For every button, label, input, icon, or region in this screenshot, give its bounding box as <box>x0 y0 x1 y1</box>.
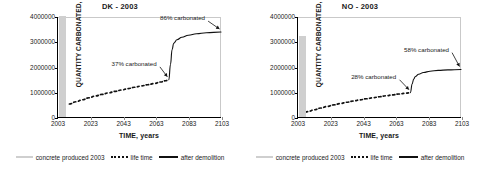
y-tick-mark-no <box>295 118 298 119</box>
legend-label-demolition: after demolition <box>181 154 225 161</box>
annotation-arrowhead-dk-1 <box>164 73 168 77</box>
plot-area-dk: QUANTITY CARBONATED, m3 0100000020000003… <box>57 17 221 118</box>
legend-item-demolition: after demolition <box>399 154 465 161</box>
annotation-label-dk-1: 37% carbonated <box>112 61 157 67</box>
legend-swatch-dotted <box>351 156 368 158</box>
y-tick-mark-no <box>295 42 298 43</box>
x-tick-label-no: 2063 <box>389 121 403 127</box>
figure-canvas: DK - 2003 QUANTITY CARBONATED, m3 010000… <box>0 0 481 170</box>
x-axis-title-dk: TIME, years <box>57 132 221 139</box>
series-after-demolition-no <box>410 70 461 93</box>
x-tick-mark-no <box>429 117 430 120</box>
chart-title-no: NO - 2003 <box>240 2 480 11</box>
y-tick-mark-dk <box>55 17 58 18</box>
x-tick-mark-no <box>396 117 397 120</box>
x-tick-label-dk: 2083 <box>182 121 196 127</box>
legend-swatch-gray-band <box>256 156 273 158</box>
x-tick-label-no: 2083 <box>422 121 436 127</box>
plot-area-no: QUANTITY CARBONATED, m3 0100000020000003… <box>297 17 461 118</box>
x-tick-label-dk: 2023 <box>84 121 98 127</box>
legend-no: concrete produced 2003 life time after d… <box>248 150 472 164</box>
x-tick-label-no: 2023 <box>324 121 338 127</box>
legend-item-produced: concrete produced 2003 <box>16 154 105 161</box>
y-tick-label-dk: 2000000 <box>30 64 55 70</box>
legend-dk: concrete produced 2003 life time after d… <box>8 150 232 164</box>
legend-swatch-solid <box>399 156 418 158</box>
y-tick-label-dk: 1000000 <box>30 90 55 96</box>
x-tick-label-dk: 2043 <box>116 121 130 127</box>
chart-title-dk: DK - 2003 <box>0 2 240 11</box>
y-tick-mark-dk <box>55 118 58 119</box>
x-tick-label-dk: 2003 <box>51 121 65 127</box>
x-axis-title-no: TIME, years <box>297 132 461 139</box>
x-tick-mark-dk <box>91 117 92 120</box>
y-tick-mark-no <box>295 68 298 69</box>
y-tick-label-dk: 4000000 <box>30 14 55 20</box>
y-tick-mark-dk <box>55 93 58 94</box>
legend-item-demolition: after demolition <box>159 154 225 161</box>
annotation-label-no-2: 58% carbonated <box>404 47 449 53</box>
x-tick-label-no: 2003 <box>291 121 305 127</box>
legend-swatch-solid <box>159 156 178 158</box>
legend-label-lifetime: life time <box>131 154 153 161</box>
legend-label-lifetime: life time <box>371 154 393 161</box>
y-tick-mark-no <box>295 93 298 94</box>
annotation-arrowhead-dk-2 <box>216 26 220 29</box>
x-tick-label-dk: 2103 <box>215 121 229 127</box>
x-tick-mark-dk <box>124 117 125 120</box>
bar-concrete-produced-dk <box>59 16 66 117</box>
chart-panel-dk: DK - 2003 QUANTITY CARBONATED, m3 010000… <box>0 0 240 170</box>
y-tick-mark-dk <box>55 68 58 69</box>
series-after-demolition-dk <box>169 32 221 80</box>
series-life-time-no <box>301 93 410 114</box>
x-tick-mark-dk <box>189 117 190 120</box>
x-tick-mark-no <box>364 117 365 120</box>
legend-label-produced: concrete produced 2003 <box>36 154 105 161</box>
y-tick-label-no: 4000000 <box>270 14 295 20</box>
y-tick-label-no: 3000000 <box>270 39 295 45</box>
y-tick-label-no: 1000000 <box>270 90 295 96</box>
x-tick-mark-dk <box>222 117 223 120</box>
annotation-label-dk-2: 86% carbonated <box>160 15 205 21</box>
y-tick-label-no: 2000000 <box>270 64 295 70</box>
legend-item-lifetime: life time <box>111 154 153 161</box>
x-tick-mark-no <box>462 117 463 120</box>
x-tick-label-dk: 2063 <box>149 121 163 127</box>
bar-concrete-produced-no <box>299 36 306 117</box>
x-tick-mark-no <box>331 117 332 120</box>
x-tick-label-no: 2103 <box>455 121 469 127</box>
y-tick-mark-dk <box>55 42 58 43</box>
series-layer-no <box>298 17 461 117</box>
chart-panel-no: NO - 2003 QUANTITY CARBONATED, m3 010000… <box>240 0 480 170</box>
legend-label-demolition: after demolition <box>421 154 465 161</box>
x-tick-label-no: 2043 <box>356 121 370 127</box>
y-tick-label-dk: 3000000 <box>30 39 55 45</box>
legend-label-produced: concrete produced 2003 <box>276 154 345 161</box>
legend-item-lifetime: life time <box>351 154 393 161</box>
legend-swatch-dotted <box>111 156 128 158</box>
legend-item-produced: concrete produced 2003 <box>256 154 345 161</box>
y-tick-mark-no <box>295 17 298 18</box>
series-life-time-dk <box>69 80 168 104</box>
legend-swatch-gray-band <box>16 156 33 158</box>
annotation-label-no-1: 28% carbonated <box>351 74 396 80</box>
x-tick-mark-dk <box>156 117 157 120</box>
